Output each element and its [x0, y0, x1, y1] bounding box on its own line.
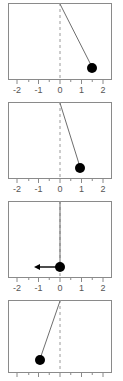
panel-3-tick-label: 2: [100, 283, 105, 293]
panel-1-bob: [87, 63, 97, 73]
panel-1-tick-label: 1: [79, 85, 84, 95]
panel-2-tick-label: 0: [57, 184, 62, 194]
panel-2-plot: -2 -1 0 1 2: [0, 99, 123, 195]
panel-1-plot: -2 -1 0 1 2: [0, 0, 123, 96]
panel-2-tick-label: 2: [100, 184, 105, 194]
pendulum-figure: -2 -1 0 1 2: [0, 0, 123, 381]
panel-1-tick-label: -2: [13, 85, 21, 95]
panel-4-bob: [35, 355, 45, 365]
panel-2-rod: [60, 103, 80, 167]
panel-1-rod: [60, 4, 92, 67]
panel-4-rod: [40, 301, 60, 359]
panel-1-tick-label: 0: [57, 85, 62, 95]
panel-1-tick-labels: -2 -1 0 1 2: [13, 85, 106, 95]
pendulum-panel-2: -2 -1 0 1 2: [0, 99, 123, 195]
panel-2-bob: [75, 163, 85, 173]
panel-3-tick-labels: -2 -1 0 1 2: [13, 283, 106, 293]
panel-3-tick-label: 1: [79, 283, 84, 293]
panel-2-tick-label: -2: [13, 184, 21, 194]
panel-3-tick-label: -1: [34, 283, 42, 293]
panel-1-tick-label: -1: [34, 85, 42, 95]
panel-2-tick-label: -1: [34, 184, 42, 194]
panel-3-plot: -2 -1 0 1 2: [0, 198, 123, 294]
panel-3-bob: [55, 262, 65, 272]
panel-4-plot: [0, 297, 123, 381]
panel-2-tick-label: 1: [79, 184, 84, 194]
pendulum-panel-3: -2 -1 0 1 2: [0, 198, 123, 294]
panel-3-tick-label: 0: [57, 283, 62, 293]
panel-3-tick-label: -2: [13, 283, 21, 293]
pendulum-panel-4: [0, 297, 123, 381]
panel-2-tick-labels: -2 -1 0 1 2: [13, 184, 106, 194]
pendulum-panel-1: -2 -1 0 1 2: [0, 0, 123, 96]
panel-1-tick-label: 2: [100, 85, 105, 95]
